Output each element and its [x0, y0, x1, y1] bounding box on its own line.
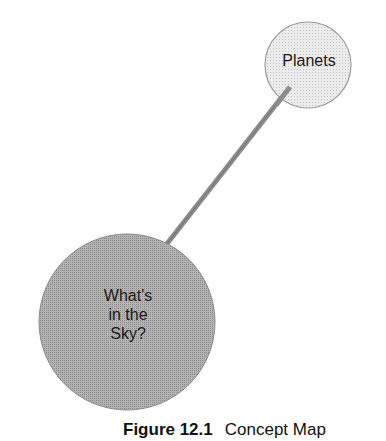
concept-map-diagram: Planets What's in the Sky? Figure 12.1Co… — [0, 0, 386, 441]
sky-label-line-1: What's — [78, 286, 178, 305]
figure-number: Figure 12.1 — [123, 420, 213, 439]
sky-label-line-3: Sky? — [78, 324, 178, 343]
sky-label-line-2: in the — [78, 305, 178, 324]
figure-title: Concept Map — [225, 420, 326, 439]
figure-caption: Figure 12.1Concept Map — [123, 420, 326, 440]
planets-label: Planets — [266, 52, 352, 70]
sky-label: What's in the Sky? — [78, 286, 178, 343]
